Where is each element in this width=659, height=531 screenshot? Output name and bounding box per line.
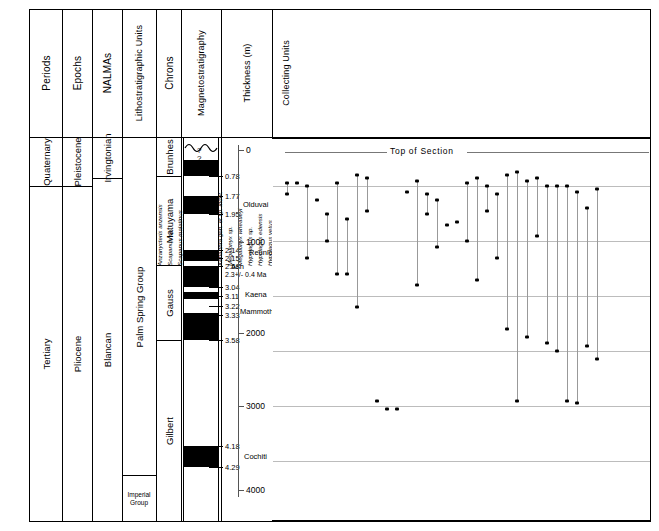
epoch-cell-label-1: Pliocene bbox=[72, 336, 83, 372]
chron-age-label-7: 3.11 bbox=[225, 292, 239, 301]
polarity-band-5 bbox=[184, 313, 218, 340]
range-endpoint-top-24 bbox=[525, 179, 529, 182]
range-endpoint-top-6 bbox=[345, 218, 349, 221]
range-endpoint-bottom-6 bbox=[345, 273, 349, 276]
range-endpoint-bottom-28 bbox=[565, 399, 569, 402]
chron-tick-5 bbox=[209, 266, 223, 267]
range-endpoint-bottom-14 bbox=[425, 212, 429, 215]
ash-age-label: 2.3+/- 0.4 Ma bbox=[225, 271, 266, 278]
thickness-tick-3 bbox=[238, 406, 244, 407]
range-endpoint-top-9 bbox=[375, 399, 379, 402]
nalma-cell-0: Irvingtonian bbox=[92, 138, 122, 178]
range-endpoint-top-14 bbox=[425, 193, 429, 196]
header-collecting-units-label: Collecting Units bbox=[281, 40, 291, 106]
thickness-tick-label-3: 3000 bbox=[246, 401, 265, 411]
range-line-8 bbox=[367, 178, 368, 211]
header-periods: Periods bbox=[29, 9, 62, 137]
range-endpoint-bottom-29 bbox=[575, 402, 579, 405]
subchron-label-0: Olduvai bbox=[243, 200, 268, 209]
range-endpoint-bottom-8 bbox=[365, 209, 369, 212]
range-line-21 bbox=[497, 194, 498, 257]
range-line-22 bbox=[507, 175, 508, 329]
range-endpoint-bottom-21 bbox=[495, 256, 499, 259]
range-endpoint-bottom-24 bbox=[525, 336, 529, 339]
epoch-cell-0: Pleistocene bbox=[62, 138, 92, 186]
range-line-18 bbox=[467, 183, 468, 241]
thickness-tick-label-1: 1000 bbox=[246, 237, 265, 247]
epoch-cell-label-0: Pleistocene bbox=[72, 137, 83, 186]
gridline-1 bbox=[273, 241, 650, 242]
chron-tick-6 bbox=[209, 287, 223, 288]
chron-cell-0: Brunhes bbox=[156, 138, 181, 176]
range-line-31 bbox=[597, 189, 598, 360]
polarity-band-6 bbox=[184, 446, 218, 467]
chron-tick-11 bbox=[209, 446, 223, 447]
range-line-20 bbox=[487, 186, 488, 211]
subchron-label-2: Kaena bbox=[245, 290, 267, 299]
subchron-label-4: Cochiti bbox=[244, 452, 267, 461]
range-endpoint-bottom-4 bbox=[325, 240, 329, 243]
range-endpoint-top-27 bbox=[555, 185, 559, 188]
range-endpoint-top-30 bbox=[585, 207, 589, 210]
gridline-4 bbox=[273, 406, 650, 407]
range-endpoint-bottom-26 bbox=[545, 341, 549, 344]
range-endpoint-top-4 bbox=[325, 212, 329, 215]
subchron-label-3: Mammoth bbox=[240, 307, 273, 316]
range-endpoint-top-23 bbox=[515, 171, 519, 174]
range-endpoint-bottom-22 bbox=[505, 328, 509, 331]
thickness-tick-0 bbox=[238, 150, 244, 151]
range-line-13 bbox=[417, 181, 418, 286]
header-epochs: Epochs bbox=[62, 9, 92, 137]
chron-cell-label-2: Gauss bbox=[163, 289, 174, 316]
range-endpoint-top-22 bbox=[505, 174, 509, 177]
range-line-25 bbox=[537, 178, 538, 236]
header-litho-label: Lithostratigraphic Units bbox=[134, 25, 144, 121]
range-endpoint-top-2 bbox=[305, 185, 309, 188]
range-endpoint-top-13 bbox=[415, 179, 419, 182]
chron-tick-10 bbox=[209, 340, 223, 341]
range-line-6 bbox=[347, 219, 348, 274]
range-endpoint-top-18 bbox=[465, 182, 469, 185]
range-line-28 bbox=[567, 186, 568, 401]
range-line-26 bbox=[547, 186, 548, 343]
period-cell-0: Quaternary bbox=[29, 138, 62, 186]
range-line-2 bbox=[307, 186, 308, 258]
range-endpoint-top-8 bbox=[365, 176, 369, 179]
chron-tick-0 bbox=[209, 176, 223, 177]
polarity-band-0 bbox=[184, 160, 218, 176]
range-endpoint-bottom-2 bbox=[305, 256, 309, 259]
range-line-27 bbox=[557, 186, 558, 351]
header-nalmas: NALMAs bbox=[92, 9, 122, 137]
thickness-tick-2 bbox=[238, 333, 244, 334]
range-endpoint-bottom-19 bbox=[475, 278, 479, 281]
range-line-23 bbox=[517, 172, 518, 400]
litho-cell-1: ImperialGroup bbox=[122, 475, 156, 521]
top-of-section-line-left bbox=[285, 152, 387, 153]
chron-tick-1 bbox=[209, 196, 223, 197]
range-endpoint-bottom-18 bbox=[465, 240, 469, 243]
chron-cell-3: Gilbert bbox=[156, 340, 181, 521]
gridline-0 bbox=[273, 186, 650, 187]
header-periods-label: Periods bbox=[40, 55, 51, 90]
range-endpoint-top-16 bbox=[445, 223, 449, 226]
range-endpoint-bottom-23 bbox=[515, 399, 519, 402]
thickness-tick-label-0: 0 bbox=[246, 145, 251, 155]
top-of-section-label: Top of Section bbox=[390, 146, 454, 156]
chron-cell-1: Matuyama bbox=[156, 176, 181, 265]
litho-label-1: ImperialGroup bbox=[124, 491, 154, 507]
range-endpoint-top-26 bbox=[545, 185, 549, 188]
figure-root: Periods Epochs NALMAs Lithostratigraphic… bbox=[0, 0, 659, 531]
chron-tick-2 bbox=[209, 214, 223, 215]
nalma-cell-label-1: Blancan bbox=[102, 333, 113, 367]
range-endpoint-bottom-20 bbox=[485, 209, 489, 212]
header-magneto: Magnetostratigraphy bbox=[181, 9, 221, 137]
chron-tick-12 bbox=[209, 467, 223, 468]
range-endpoint-top-28 bbox=[565, 185, 569, 188]
chron-cell-label-1: Matuyama bbox=[163, 199, 174, 243]
range-line-4 bbox=[327, 214, 328, 242]
thickness-tick-1 bbox=[238, 242, 244, 243]
gridline-2 bbox=[273, 296, 650, 297]
gridline-3 bbox=[273, 351, 650, 352]
range-endpoint-top-7 bbox=[355, 174, 359, 177]
range-line-14 bbox=[427, 194, 428, 213]
